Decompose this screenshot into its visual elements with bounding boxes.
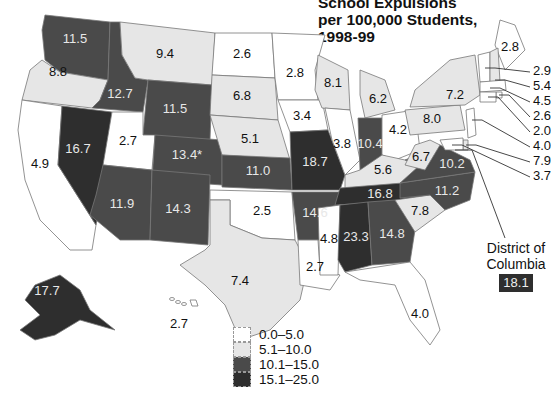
state-value-label-ca: 4.9: [31, 156, 49, 171]
state-value-label-la: 2.7: [306, 259, 324, 274]
state-value-label-mt: 9.4: [156, 46, 174, 61]
state-value-label-tx: 7.4: [231, 273, 249, 288]
legend-label: 10.1–15.0: [259, 357, 319, 372]
state-value-label-fl: 4.0: [411, 306, 429, 321]
northeast-callout-label: 5.4: [533, 78, 551, 93]
state-value-label-id: 12.7: [107, 86, 132, 101]
state-value-label-in: 10.4: [357, 136, 382, 151]
state-value-label-mi: 6.2: [369, 91, 387, 106]
state-value-label-hi: 2.7: [170, 316, 188, 331]
state-value-label-ms: 4.8: [320, 231, 338, 246]
state-shape-hi: [190, 300, 198, 306]
northeast-callout-label: 2.0: [533, 123, 551, 138]
legend-swatch: [233, 372, 251, 387]
legend-item: 5.1–10.0: [233, 342, 319, 357]
state-shape-nj: [466, 108, 476, 138]
state-value-label-il: 3.8: [333, 136, 351, 151]
state-value-label-wv: 6.7: [412, 149, 430, 164]
legend-item: 0.0–5.0: [233, 327, 319, 342]
state-shape-vt: [478, 52, 490, 82]
state-value-label-sd: 6.8: [233, 88, 251, 103]
state-value-label-ut: 2.7: [119, 133, 137, 148]
state-value-label-nm: 14.3: [165, 201, 190, 216]
state-value-label-az: 11.9: [110, 196, 134, 211]
state-value-label-al: 23.3: [343, 229, 368, 244]
state-shape-ma: [480, 80, 506, 92]
northeast-callout-label: 2.6: [533, 108, 551, 123]
state-value-label-nd: 2.6: [233, 46, 251, 61]
hawaii-island: [176, 301, 181, 304]
northeast-callout-label: 7.9: [533, 153, 551, 168]
state-value-label-mo: 18.7: [302, 154, 327, 169]
state-value-label-ar: 14.6: [302, 205, 327, 220]
state-value-label-or: 8.8: [49, 64, 67, 79]
state-value-label-wi: 8.1: [324, 75, 342, 90]
state-value-label-me: 2.8: [501, 39, 519, 54]
state-value-label-ks: 11.0: [246, 163, 270, 178]
state-value-label-tn: 16.8: [367, 186, 392, 201]
state-value-label-ne: 5.1: [241, 131, 259, 146]
state-value-label-sc: 7.8: [411, 203, 429, 218]
state-value-label-nc: 11.2: [435, 183, 459, 198]
state-value-label-mn: 2.8: [286, 65, 304, 80]
state-shape-fl: [345, 262, 440, 345]
dc-label: District of Columbia: [476, 240, 551, 272]
state-value-label-ak: 17.7: [34, 283, 59, 298]
state-value-label-va: 10.2: [439, 156, 464, 171]
hawaii-island: [182, 303, 187, 306]
northeast-callout-label: 2.9: [533, 63, 551, 78]
dc-value: 18.1: [499, 274, 532, 292]
hawaii-island: [170, 298, 175, 301]
dc-callout: District of Columbia 18.1: [476, 240, 551, 292]
state-value-label-oh: 4.2: [389, 122, 407, 137]
legend-label: 5.1–10.0: [259, 342, 312, 357]
legend-item: 15.1–25.0: [233, 372, 319, 387]
state-value-label-wa: 11.5: [63, 31, 87, 46]
callout-leader-line: [499, 95, 530, 117]
state-value-label-pa: 8.0: [423, 111, 441, 126]
state-value-label-ia: 3.4: [293, 108, 311, 123]
legend: 0.0–5.0 5.1–10.0 10.1–15.0 15.1–25.0: [233, 327, 319, 387]
legend-swatch: [233, 357, 251, 372]
legend-item: 10.1–15.0: [233, 357, 319, 372]
state-value-label-nv: 16.7: [65, 141, 90, 156]
state-value-label-ny: 7.2: [446, 87, 464, 102]
northeast-callout-label: 4.5: [533, 93, 551, 108]
legend-label: 0.0–5.0: [259, 327, 304, 342]
state-value-label-ky: 5.6: [374, 162, 392, 177]
state-value-label-co: 13.4*: [172, 147, 202, 162]
legend-label: 15.1–25.0: [259, 372, 319, 387]
state-value-label-wy: 11.5: [163, 101, 187, 116]
callout-leader-line: [472, 120, 530, 147]
state-value-label-ok: 2.5: [253, 203, 271, 218]
state-value-label-ga: 14.8: [379, 226, 404, 241]
legend-swatch: [233, 327, 251, 342]
northeast-callout-label: 4.0: [533, 138, 551, 153]
legend-swatch: [233, 342, 251, 357]
state-shape-nh: [490, 48, 500, 82]
northeast-callout-label: 3.7: [533, 168, 551, 183]
